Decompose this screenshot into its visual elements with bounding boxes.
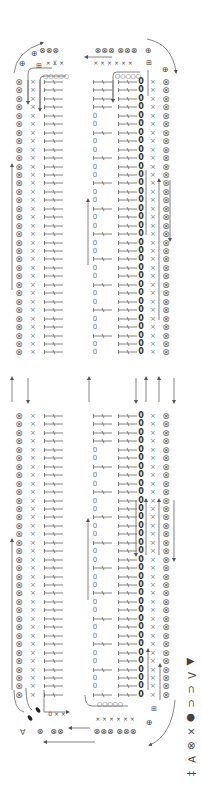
arrows-overlay: ∀ — [0, 0, 202, 792]
legend-double-crochet-icon: ‡ — [186, 763, 197, 785]
svg-text:∀: ∀ — [20, 728, 26, 737]
crochet-chart: ⊗×0×⊗⊗×0×⊗⊗×0×⊗⊗×0×⊗⊗×00×⊗⊗×00×⊗⊗×0×⊗⊗×0… — [0, 0, 202, 792]
